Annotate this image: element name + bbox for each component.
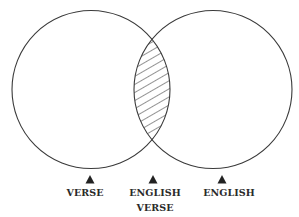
- triangle-marker-icon: [149, 175, 158, 184]
- label-english-verse-line2: VERSE: [129, 201, 181, 215]
- label-verse-text: VERSE: [66, 187, 103, 198]
- label-verse: VERSE: [66, 186, 103, 200]
- label-english-verse-line1: ENGLISH: [129, 186, 181, 200]
- triangle-marker-icon: [86, 175, 95, 184]
- intersection-region: [134, 11, 292, 169]
- label-english-text: ENGLISH: [203, 187, 255, 198]
- label-english: ENGLISH: [203, 186, 255, 200]
- label-english-verse: ENGLISH VERSE: [129, 186, 181, 215]
- triangle-marker-icon: [218, 175, 227, 184]
- venn-diagram: [0, 0, 299, 217]
